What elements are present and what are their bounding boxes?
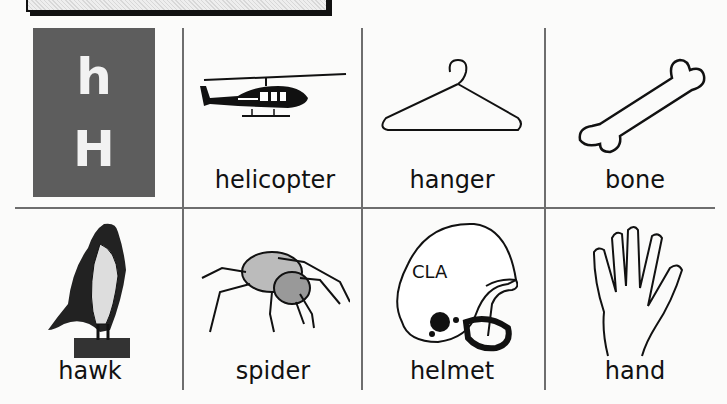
letter-card: h H [33,28,155,197]
hand-icon [582,222,692,362]
grid-divider [361,28,363,390]
helmet-icon: CLA [388,218,518,362]
bone-icon [560,44,710,160]
spider-icon [200,244,350,338]
helmet-text: CLA [412,261,448,282]
helicopter-icon [198,72,350,126]
hanger-icon [380,58,526,140]
lowercase-letter: h [76,41,112,113]
card-label-bone: bone [545,166,725,194]
card-label-hand: hand [545,357,725,385]
hawk-icon [44,220,140,364]
card-label-helicopter: helicopter [185,166,365,194]
header-banner [26,0,328,12]
card-label-hawk: hawk [0,357,180,385]
uppercase-letter: H [73,113,115,185]
grid-divider [182,28,184,390]
grid-divider [15,207,715,209]
card-label-spider: spider [183,357,363,385]
grid-divider [544,28,546,390]
card-label-hanger: hanger [362,166,542,194]
card-label-helmet: helmet [362,357,542,385]
